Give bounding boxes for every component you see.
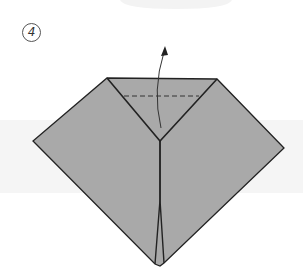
origami-step-diagram — [0, 0, 303, 272]
paper-outline — [33, 78, 284, 266]
step-number-badge: 4 — [22, 23, 41, 42]
diagram-canvas: 4 — [0, 0, 303, 272]
fold-arrow-head-icon — [161, 46, 168, 56]
background-blob — [120, 0, 232, 9]
